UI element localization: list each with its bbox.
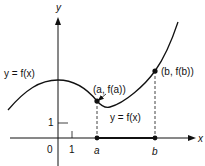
x-tick-label: 1 [69,144,75,155]
x-axis-label: x [197,133,204,144]
curve-f [8,22,178,110]
point-b-axis [153,136,158,141]
point-a-axis [95,136,100,141]
left-curve-label: y = f(x) [4,68,35,79]
point-b-label: (b, f(b)) [161,66,194,77]
point-a-label: (a, f(a)) [93,84,126,95]
y-tick-label: 1 [48,117,54,128]
y-axis-label: y [55,2,62,13]
b-axis-label: b [152,146,158,157]
point-a-fa [94,98,99,103]
point-b-fb [152,68,157,73]
middle-curve-label: y = f(x) [110,112,141,123]
a-axis-label: a [94,145,100,156]
function-graph: y x 0 1 1 a b y = f(x) y = f(x) (a, f(a)… [0,0,205,166]
origin-label: 0 [47,144,53,155]
